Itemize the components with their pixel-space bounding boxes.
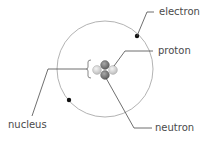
neutron-label: neutron bbox=[155, 123, 194, 133]
proton-leader-line bbox=[114, 51, 153, 66]
neutron-top bbox=[101, 61, 110, 70]
proton-left bbox=[93, 66, 102, 75]
electron-bottom-left bbox=[67, 98, 71, 102]
nucleus-bracket bbox=[86, 60, 91, 78]
neutron-leader-line bbox=[106, 78, 152, 128]
proton-right bbox=[109, 66, 118, 75]
nucleus-label: nucleus bbox=[8, 120, 47, 130]
neutron-bottom bbox=[101, 71, 110, 80]
proton-label: proton bbox=[158, 46, 191, 56]
electron-leader-line bbox=[137, 12, 154, 36]
electron-label: electron bbox=[159, 7, 200, 17]
